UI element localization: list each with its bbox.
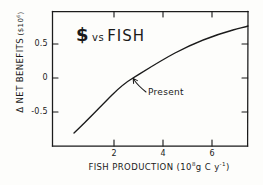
x-axis-ticks-top xyxy=(114,12,212,18)
present-leader-line xyxy=(135,81,147,93)
x-tick-label-1: 4 xyxy=(156,150,170,158)
present-annotation-label: Present xyxy=(148,88,184,97)
y-axis-label: Δ NET BENEFITS ($106) xyxy=(16,0,25,130)
chart-figure: $vsFISH 0.5 0 -0.5 2 4 6 Δ NET BENEFITS … xyxy=(0,0,263,185)
y-tick-label-1: 0 xyxy=(28,74,48,82)
x-axis-label-main: FISH PRODUCTION xyxy=(88,162,173,172)
x-tick-label-2: 6 xyxy=(205,150,219,158)
y-axis-label-main: Δ NET BENEFITS xyxy=(15,38,25,113)
y-axis-label-exponent: 6 xyxy=(16,14,21,17)
chart-title-vs: vs xyxy=(89,32,107,43)
y-axis-ticks xyxy=(53,44,59,112)
y-axis-label-units: ($106) xyxy=(17,11,25,38)
chart-title-fish: FISH xyxy=(107,27,145,45)
y-axis-ticks-right xyxy=(242,44,248,112)
x-axis-label: FISH PRODUCTION (108g C y-1) xyxy=(64,163,254,172)
x-tick-label-0: 2 xyxy=(107,150,121,158)
chart-title-dollar: $ xyxy=(76,24,89,45)
y-tick-label-0: 0.5 xyxy=(28,40,48,48)
x-axis-label-units-rest: g C y xyxy=(196,162,220,172)
y-axis-label-wrapper: Δ NET BENEFITS ($106) xyxy=(16,0,30,130)
x-axis-ticks xyxy=(114,140,212,146)
chart-title: $vsFISH xyxy=(76,26,145,44)
